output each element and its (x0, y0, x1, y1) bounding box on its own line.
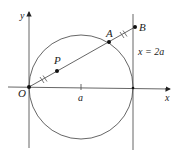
point-circle-right (132, 87, 135, 90)
x-axis (8, 87, 170, 89)
geometry-diagram: y x O a P A B x = 2a (0, 0, 179, 160)
point-A (107, 40, 111, 44)
label-a: a (78, 92, 83, 103)
point-O (27, 85, 31, 89)
point-P (55, 69, 59, 73)
label-x: x (164, 92, 170, 103)
label-A: A (105, 27, 113, 39)
label-P: P (53, 54, 61, 66)
label-tangent-x-2a: x = 2a (137, 46, 164, 57)
label-B: B (139, 21, 146, 33)
label-y: y (19, 10, 25, 21)
label-O: O (18, 87, 26, 99)
point-B (133, 25, 137, 29)
